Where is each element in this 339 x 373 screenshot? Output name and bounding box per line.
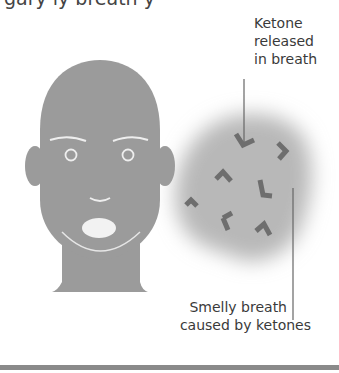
head-figure xyxy=(25,60,175,292)
label-line: caused by ketones xyxy=(180,316,311,334)
label-line: released xyxy=(254,32,317,50)
open-mouth xyxy=(82,218,116,238)
bottom-divider-bar xyxy=(0,365,339,370)
label-line: in breath xyxy=(254,50,317,68)
label-ketone-released: Ketone released in breath xyxy=(254,14,317,68)
label-line: Ketone xyxy=(254,14,317,32)
label-smelly-breath: Smelly breath caused by ketones xyxy=(180,298,311,334)
label-line: Smelly breath xyxy=(180,298,311,316)
